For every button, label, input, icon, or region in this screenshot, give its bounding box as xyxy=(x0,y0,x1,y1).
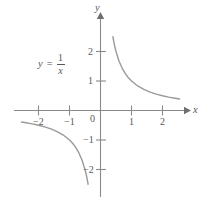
equation-lhs: y xyxy=(38,59,43,70)
curve-branch-positive xyxy=(113,37,180,99)
y-axis-label: y xyxy=(95,3,100,14)
x-axis-arrowhead xyxy=(184,107,191,114)
equation-fraction: 1 x xyxy=(57,53,65,76)
curve-branch-negative xyxy=(21,122,88,184)
equation-annotation: y = 1 x xyxy=(38,53,65,76)
fraction-numerator: 1 xyxy=(57,53,64,64)
plot-canvas xyxy=(0,0,209,217)
tick-label-origin: 0 xyxy=(90,114,95,124)
tick-label-x--1: −1 xyxy=(64,117,75,127)
tick-label-y-2: 2 xyxy=(88,47,93,57)
graph-figure: x y 0 −2 −1 1 2 2 1 −1 −2 y = 1 x xyxy=(0,0,209,217)
tick-label-x-1: 1 xyxy=(129,117,134,127)
tick-label-y--1: −1 xyxy=(83,135,94,145)
tick-label-y--2: −2 xyxy=(83,165,94,175)
tick-label-x--2: −2 xyxy=(33,117,44,127)
x-axis-label: x xyxy=(193,105,198,116)
tick-label-y-1: 1 xyxy=(88,76,93,86)
fraction-denominator: x xyxy=(57,65,63,76)
equation-operator: = xyxy=(47,59,53,70)
tick-label-x-2: 2 xyxy=(160,117,165,127)
